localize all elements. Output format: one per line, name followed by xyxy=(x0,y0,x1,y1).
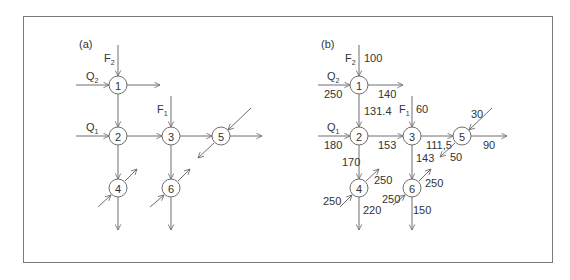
svg-text:5: 5 xyxy=(218,131,224,143)
svg-text:6: 6 xyxy=(168,183,174,195)
flow-4-out-value: 220 xyxy=(363,204,381,216)
flow-q1-value: 180 xyxy=(324,139,342,151)
label-q1: Q1 xyxy=(86,121,99,135)
flow-q2-value: 250 xyxy=(324,88,342,100)
label-f2: F2 xyxy=(104,52,115,66)
flow-6-out-diag-value: 250 xyxy=(425,177,443,189)
flow-5-diag-value: 50 xyxy=(450,151,462,163)
flow-f1-value: 60 xyxy=(416,103,428,115)
label-q1: Q1 xyxy=(327,121,340,135)
svg-text:3: 3 xyxy=(409,131,415,143)
flow-1-out-value: 140 xyxy=(378,88,396,100)
svg-text:2: 2 xyxy=(356,131,362,143)
flow-1-2-value: 131.4 xyxy=(364,105,392,117)
flow-2-3-value: 153 xyxy=(378,139,396,151)
arrow-in-to-4 xyxy=(340,195,352,207)
node-a-5: 5 xyxy=(212,127,230,145)
arrow-in-to-4 xyxy=(98,195,111,207)
node-a-2: 2 xyxy=(109,127,127,145)
flow-in-6-value: 250 xyxy=(382,193,400,205)
panel-a: (a) F2 Q2 Q1 F1 xyxy=(76,38,262,230)
label-q2: Q2 xyxy=(327,70,340,84)
svg-text:4: 4 xyxy=(356,183,362,195)
node-b-1: 1 xyxy=(350,76,368,94)
arrow-5-out-diag xyxy=(198,143,214,158)
node-b-2: 2 xyxy=(350,127,368,145)
svg-text:6: 6 xyxy=(409,183,415,195)
label-f1: F1 xyxy=(157,103,168,117)
arrow-6-out-diag xyxy=(178,169,190,181)
svg-text:3: 3 xyxy=(168,131,174,143)
arrow-in-to-5 xyxy=(228,108,251,130)
node-a-4: 4 xyxy=(109,179,127,197)
label-f2: F2 xyxy=(345,52,356,66)
node-b-6: 6 xyxy=(403,179,421,197)
node-b-3: 3 xyxy=(403,127,421,145)
node-a-3: 3 xyxy=(162,127,180,145)
label-q2: Q2 xyxy=(86,70,99,84)
node-b-4: 4 xyxy=(350,179,368,197)
label-f1: F1 xyxy=(399,103,410,117)
flow-2-4-value: 170 xyxy=(342,156,360,168)
node-b-5: 5 xyxy=(453,127,471,145)
svg-text:2: 2 xyxy=(115,131,121,143)
flow-4-out-diag-value: 250 xyxy=(374,174,392,186)
flow-f2-value: 100 xyxy=(364,52,382,64)
panel-a-label: (a) xyxy=(79,38,92,50)
flow-5-out-value: 90 xyxy=(483,139,495,151)
arrow-4-out-diag xyxy=(125,169,137,181)
svg-text:1: 1 xyxy=(115,80,121,92)
panel-b: (b) F2 100 Q2 250 140 131.4 Q1 180 153 F… xyxy=(318,38,507,230)
svg-text:1: 1 xyxy=(356,80,362,92)
flow-3-6-value: 143 xyxy=(416,152,434,164)
flow-network-figure: (a) F2 Q2 Q1 F1 xyxy=(0,0,570,280)
svg-text:4: 4 xyxy=(115,183,121,195)
node-a-1: 1 xyxy=(109,76,127,94)
flow-in-5-value: 30 xyxy=(471,108,483,120)
flow-6-out-value: 150 xyxy=(413,204,431,216)
panel-b-label: (b) xyxy=(321,38,334,50)
svg-text:5: 5 xyxy=(459,131,465,143)
node-a-6: 6 xyxy=(162,179,180,197)
arrow-in-to-6 xyxy=(150,195,164,207)
flow-in-4-value: 250 xyxy=(323,195,341,207)
